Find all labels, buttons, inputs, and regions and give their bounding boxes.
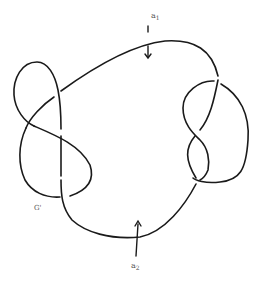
label-a1-sub: 1	[156, 14, 160, 21]
label-a2-sub: 2	[136, 264, 140, 271]
bottom-arc	[61, 180, 196, 238]
label-g-prime: G'	[34, 205, 42, 212]
label-a1: a1	[151, 12, 160, 21]
label-a2: a2	[131, 262, 140, 271]
left-vertical-upper	[14, 62, 61, 129]
right-outer-loop	[193, 84, 248, 183]
right-strand-upper	[200, 80, 218, 130]
right-inner-loop	[183, 81, 214, 180]
top-arc	[61, 41, 218, 91]
left-outer-lower	[20, 128, 60, 197]
a2-arrow-shaft	[136, 224, 138, 256]
right-strand-lower	[188, 136, 196, 178]
left-diagonal-main	[34, 126, 92, 196]
knot-diagram	[0, 0, 259, 288]
